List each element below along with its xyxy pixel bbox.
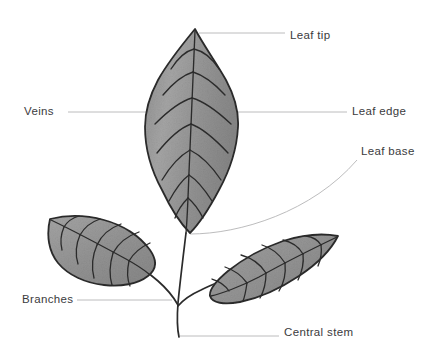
label-central-stem: Central stem	[284, 327, 353, 339]
center-leaf	[145, 29, 238, 233]
leaf-anatomy-diagram: Leaf tip Leaf edge Leaf base Veins Branc…	[0, 0, 432, 357]
label-leaf-edge: Leaf edge	[352, 106, 406, 118]
right-leaf	[210, 235, 338, 304]
left-leaf	[48, 216, 155, 286]
label-leaf-tip: Leaf tip	[290, 30, 331, 42]
label-branches: Branches	[22, 294, 73, 306]
central-stem	[177, 233, 186, 337]
center-leaf-blade	[145, 29, 238, 233]
label-veins: Veins	[24, 106, 54, 118]
label-leaf-base: Leaf base	[361, 146, 415, 158]
stems-group	[143, 233, 216, 337]
